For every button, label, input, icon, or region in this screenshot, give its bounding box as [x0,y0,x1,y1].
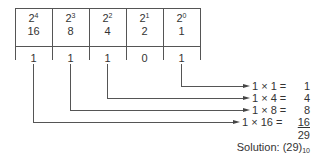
connector-line-2-pow-2 [107,64,108,98]
place-value: 8 [52,25,89,38]
place-value: 2 [126,25,163,38]
solution-text: Solution: (29)10 [237,141,310,154]
connector-line-2-pow-3 [70,64,71,110]
binary-place-value-table: 24 16 1 23 8 1 22 4 1 21 2 0 20 1 1 [15,8,200,60]
place-value: 16 [15,25,52,38]
connector-line-2-pow-3 [70,110,243,111]
solution-value: (29) [283,141,303,153]
arrow-right-icon [243,84,250,88]
equation-result: 16 [290,116,310,129]
column-divider [200,8,201,60]
connector-line-2-pow-4 [33,122,233,123]
connector-line-2-pow-2 [107,98,243,99]
power-exponent: 3 [72,12,76,19]
power-exponent: 2 [109,12,113,19]
arrow-right-icon [243,108,250,112]
connector-line-2-pow-0 [181,86,243,87]
connector-line-2-pow-4 [33,64,34,122]
power-exponent: 0 [183,12,187,19]
solution-label: Solution: [237,141,280,153]
connector-line-2-pow-0 [181,64,182,86]
power-exponent: 4 [35,12,39,19]
power-exponent: 1 [146,12,150,19]
arrow-right-icon [243,96,250,100]
binary-digit: 0 [126,52,163,65]
place-value: 4 [89,25,126,38]
place-value: 1 [163,25,200,38]
equation-expression: 1 × 16 = [242,116,282,129]
arrow-right-icon [233,120,240,124]
solution-base: 10 [302,147,310,154]
